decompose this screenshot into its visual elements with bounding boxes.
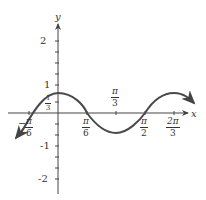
- x-tick-label-neg-pi-6: π6: [25, 117, 33, 138]
- y-tick-label-1: 1: [44, 80, 50, 90]
- x-axis-label: x: [191, 109, 197, 119]
- y-tick-label-one-third: 13: [45, 95, 51, 112]
- y-tick-label-neg1: -1: [40, 141, 50, 151]
- y-axis-label: y: [55, 12, 61, 22]
- x-tick-label-pi-3: π3: [111, 87, 119, 108]
- y-tick-label-2: 2: [40, 36, 46, 46]
- x-tick-label-pi-2: π2: [140, 117, 148, 138]
- graph-canvas: [0, 0, 206, 200]
- x-tick-label-2pi-3: 2π3: [166, 117, 180, 138]
- x-tick-label-pi-6: π6: [82, 117, 90, 138]
- y-tick-label-neg2: -2: [38, 174, 48, 184]
